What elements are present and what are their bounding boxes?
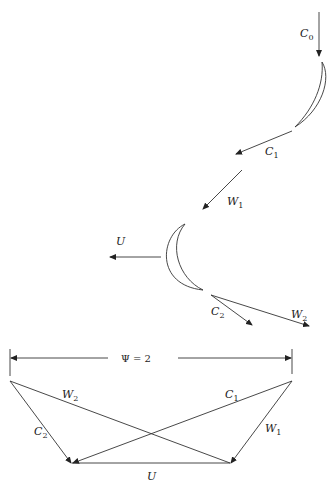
c1-arrow	[236, 131, 292, 154]
tri-c1-label: C1	[225, 388, 239, 403]
stator-blade	[295, 62, 326, 127]
tri-u-label: U	[147, 470, 157, 483]
c0-label: C0	[300, 27, 314, 42]
w2-label: W2	[291, 308, 307, 323]
rotor-blade	[166, 224, 203, 290]
tri-c2-label: C2	[34, 425, 48, 440]
c1-label: C1	[265, 145, 279, 160]
tri-c1-line	[73, 381, 292, 463]
velocity-triangles	[10, 381, 292, 463]
tri-w1-line	[231, 381, 292, 463]
c2-label: C2	[211, 305, 225, 320]
u-blade-label: U	[116, 235, 126, 248]
tri-w2-line	[10, 381, 230, 463]
tri-w2-label: W2	[62, 388, 78, 403]
psi-dimension	[10, 349, 292, 376]
psi-label: Ψ = 2	[121, 353, 151, 364]
tri-w1-label: W1	[265, 422, 281, 437]
velocity-diagram: C0 C1 W1 U C2 W2 Ψ = 2 W2 C1 C2 W1 U	[0, 0, 334, 487]
w1-label: W1	[227, 195, 243, 210]
